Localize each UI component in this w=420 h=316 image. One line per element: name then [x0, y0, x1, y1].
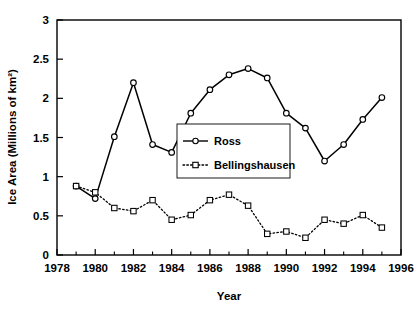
data-point [284, 229, 289, 234]
data-point [360, 117, 366, 123]
x-tick-label-1996: 1996 [388, 262, 414, 274]
legend: Ross Bellingshausen [177, 124, 296, 178]
y-tick-label-1: 1 [43, 171, 50, 183]
ice-area-line-chart: 1978198019821984198619881990199219941996… [0, 0, 420, 316]
data-point [379, 95, 385, 101]
data-point [322, 158, 328, 164]
x-tick-label-1980: 1980 [82, 262, 108, 274]
series-bellingshausen [73, 183, 384, 240]
y-axis-title: Ice Area (Millions of km²) [6, 69, 18, 205]
x-tick-label-1978: 1978 [44, 262, 70, 274]
data-point [245, 66, 251, 72]
y-tick-label-3: 3 [43, 14, 49, 26]
legend-label-ross: Ross [214, 135, 241, 147]
x-axis-tick-labels: 1978198019821984198619881990199219941996 [44, 262, 414, 274]
data-point [303, 125, 309, 131]
data-point [112, 205, 117, 210]
y-tick-label-2.5: 2.5 [33, 53, 50, 65]
y-tick-label-0: 0 [43, 249, 49, 261]
data-point [341, 221, 346, 226]
x-tick-label-1992: 1992 [312, 262, 338, 274]
data-point [131, 208, 136, 213]
data-point [360, 212, 365, 217]
legend-marker-square-icon [193, 162, 198, 167]
data-point [131, 80, 137, 86]
x-axis-ticks [57, 249, 401, 255]
x-tick-label-1994: 1994 [350, 262, 376, 274]
y-axis-ticks [57, 20, 63, 255]
data-point [341, 142, 347, 148]
data-point [284, 110, 290, 116]
x-tick-label-1982: 1982 [121, 262, 147, 274]
y-tick-label-1.5: 1.5 [33, 132, 50, 144]
data-point [265, 231, 270, 236]
data-point [150, 197, 155, 202]
data-point [207, 197, 212, 202]
chart-canvas: 1978198019821984198619881990199219941996… [0, 0, 420, 316]
y-tick-label-0.5: 0.5 [33, 210, 50, 222]
data-point [226, 72, 232, 78]
x-tick-label-1990: 1990 [274, 262, 300, 274]
y-axis-tick-labels: 00.511.522.53 [33, 14, 50, 261]
data-point [188, 212, 193, 217]
legend-marker-circle-icon [193, 138, 198, 143]
x-tick-label-1984: 1984 [159, 262, 185, 274]
data-point [245, 203, 250, 208]
data-point [207, 87, 213, 93]
x-tick-label-1986: 1986 [197, 262, 223, 274]
data-point [169, 217, 174, 222]
x-axis-title: Year [217, 290, 242, 302]
legend-label-bellingshausen: Bellingshausen [214, 159, 296, 171]
data-point [303, 235, 308, 240]
data-point [150, 142, 156, 148]
data-point [92, 196, 98, 202]
x-tick-label-1988: 1988 [235, 262, 261, 274]
data-point [264, 75, 270, 81]
data-point [322, 217, 327, 222]
data-point [73, 183, 78, 188]
y-tick-label-2: 2 [43, 92, 49, 104]
data-point [226, 192, 231, 197]
data-point [169, 150, 175, 156]
data-point [112, 134, 118, 140]
data-point [379, 225, 384, 230]
data-point [188, 110, 194, 116]
data-point [93, 190, 98, 195]
